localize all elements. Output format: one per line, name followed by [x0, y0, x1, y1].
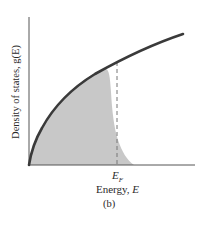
x-axis-label-text: Energy, [96, 183, 132, 195]
fermi-energy-tick-label: EF [112, 169, 123, 184]
x-axis-label-variable: E [132, 183, 139, 195]
x-axis-label: Energy, E [96, 183, 139, 195]
panel-label: (b) [103, 198, 115, 209]
fermi-energy-symbol: E [112, 169, 119, 181]
y-axis-label: Density of states, g(E) [10, 45, 21, 139]
